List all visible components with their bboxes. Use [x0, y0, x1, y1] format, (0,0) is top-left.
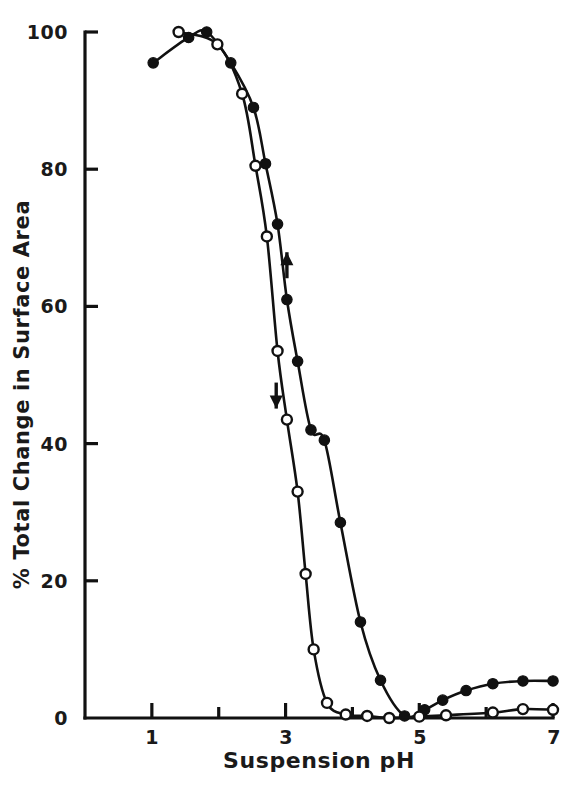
axis-lines [85, 32, 553, 718]
data-point-open-circle-titration-13 [384, 713, 394, 723]
y-tick-label-100: 100 [18, 21, 68, 43]
data-point-filled-circle-titration-5 [260, 159, 270, 169]
data-point-filled-circle-titration-18 [488, 679, 498, 689]
data-point-open-circle-titration-0 [174, 27, 184, 37]
arrow-head [270, 396, 283, 409]
data-point-open-circle-titration-5 [273, 346, 283, 356]
data-point-open-circle-titration-2 [237, 89, 247, 99]
x-tick-label-7: 7 [547, 726, 561, 748]
data-point-filled-circle-titration-8 [292, 356, 302, 366]
data-point-open-circle-titration-1 [212, 39, 222, 49]
data-point-filled-circle-titration-4 [248, 102, 258, 112]
plot-area [0, 0, 578, 789]
x-tick-label-3: 3 [279, 726, 293, 748]
data-point-open-circle-titration-10 [322, 698, 332, 708]
series-open-circle-titration [174, 27, 558, 723]
data-point-filled-circle-titration-12 [355, 617, 365, 627]
y-tick-label-40: 40 [18, 433, 68, 455]
data-point-open-circle-titration-12 [362, 711, 372, 721]
y-tick-label-80: 80 [18, 158, 68, 180]
data-point-open-circle-titration-3 [250, 161, 260, 171]
data-point-open-circle-titration-14 [414, 712, 424, 722]
x-tick-label-1: 1 [145, 726, 159, 748]
data-point-filled-circle-titration-11 [335, 517, 345, 527]
data-point-open-circle-titration-16 [488, 708, 498, 718]
data-point-open-circle-titration-11 [341, 710, 351, 720]
x-axis-title: Suspension pH [85, 748, 553, 773]
data-point-open-circle-titration-8 [301, 569, 311, 579]
x-tick-label-5: 5 [413, 726, 427, 748]
data-point-filled-circle-titration-19 [518, 676, 528, 686]
data-point-open-circle-titration-17 [518, 704, 528, 714]
data-point-filled-circle-titration-7 [282, 294, 292, 304]
data-point-filled-circle-titration-10 [319, 435, 329, 445]
data-point-open-circle-titration-4 [262, 231, 272, 241]
data-point-open-circle-titration-18 [548, 705, 558, 715]
series-filled-circle-titration [148, 27, 558, 721]
data-point-filled-circle-titration-9 [306, 425, 316, 435]
data-point-filled-circle-titration-6 [272, 219, 282, 229]
data-point-filled-circle-titration-14 [399, 711, 409, 721]
data-point-filled-circle-titration-13 [375, 675, 385, 685]
data-point-open-circle-titration-7 [293, 487, 303, 497]
y-tick-label-60: 60 [18, 295, 68, 317]
series-line-open-circle-titration [179, 32, 553, 718]
series-line-filled-circle-titration [153, 30, 553, 717]
data-point-open-circle-titration-15 [441, 710, 451, 720]
data-point-filled-circle-titration-16 [437, 695, 447, 705]
chart-figure: % Total Change in Surface Area Suspensio… [0, 0, 578, 789]
data-point-filled-circle-titration-17 [461, 685, 471, 695]
y-tick-label-20: 20 [18, 570, 68, 592]
data-point-open-circle-titration-9 [309, 644, 319, 654]
data-series-layer [148, 27, 558, 723]
data-point-filled-circle-titration-0 [148, 58, 158, 68]
data-point-filled-circle-titration-20 [548, 676, 558, 686]
y-tick-label-0: 0 [18, 707, 68, 729]
data-point-open-circle-titration-6 [282, 415, 292, 425]
